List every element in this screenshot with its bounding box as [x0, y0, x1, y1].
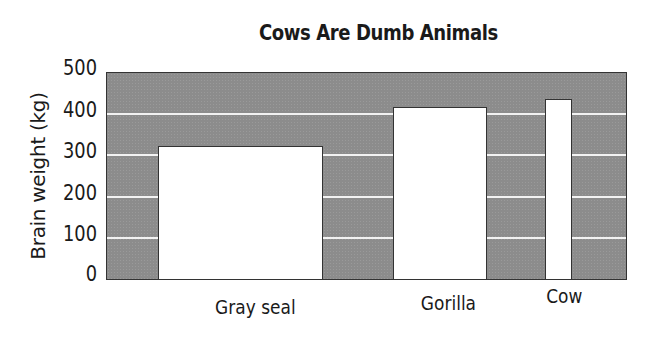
y-tick-500: 500	[46, 56, 97, 80]
plot-area	[106, 72, 627, 280]
bar-gray-seal	[158, 146, 323, 279]
bar-gorilla	[393, 107, 487, 279]
y-tick-300: 300	[46, 139, 97, 163]
y-tick-0: 0	[46, 262, 97, 286]
y-tick-200: 200	[46, 181, 97, 205]
x-label-cow: Cow	[546, 284, 582, 308]
y-tick-100: 100	[46, 222, 97, 246]
x-label-gorilla: Gorilla	[421, 291, 476, 315]
chart-title: Cows Are Dumb Animals	[68, 20, 599, 45]
y-tick-400: 400	[46, 98, 97, 122]
x-label-gray-seal: Gray seal	[215, 295, 296, 319]
bar-cow	[545, 99, 572, 279]
